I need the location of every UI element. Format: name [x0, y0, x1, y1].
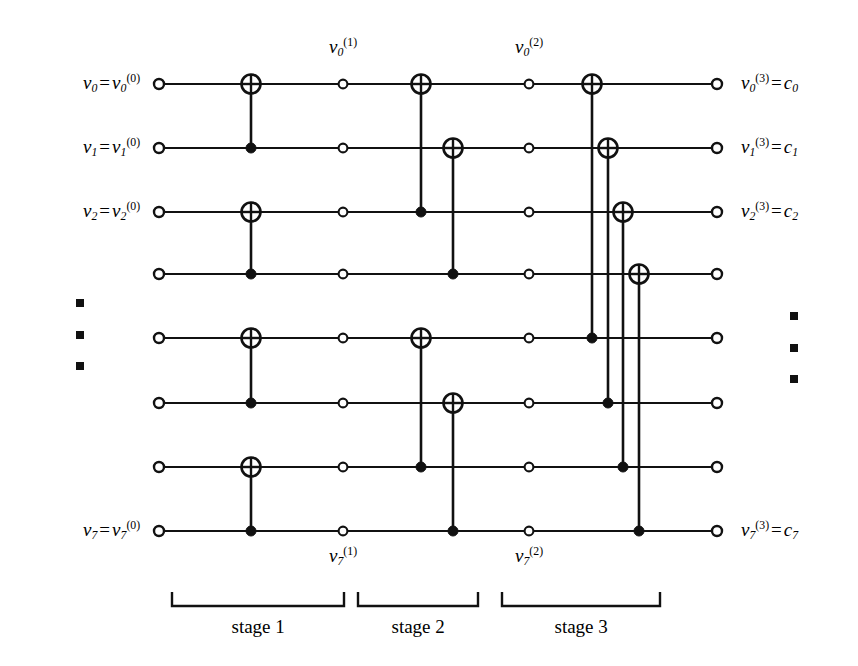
control-dot-stage3-0[interactable]: [587, 333, 597, 343]
input-label-row-1: v1=v1(0): [83, 137, 140, 159]
input-node-row-1[interactable]: [154, 143, 164, 153]
control-dot-stage1-1[interactable]: [246, 269, 256, 279]
output-label-row-7: v7(3)=c7: [741, 520, 798, 542]
output-label-row-2: v2(3)=c2: [741, 201, 798, 223]
stage1-output-node-row-1[interactable]: [339, 144, 348, 153]
intermediate-label-v0_2: v0(2): [515, 37, 543, 59]
control-dot-stage3-2[interactable]: [618, 462, 628, 472]
control-dot-stage3-1[interactable]: [603, 398, 613, 408]
stage2-output-node-row-4[interactable]: [525, 334, 534, 343]
left-ellipsis-dot-1: [76, 331, 84, 339]
control-dot-stage2-0[interactable]: [416, 207, 426, 217]
polar-encoder-figure: v0=v0(0)v1=v1(0)v2=v2(0)v7=v7(0)v0(3)=c0…: [0, 0, 858, 666]
stage-label-1: stage 1: [232, 616, 285, 638]
stage1-output-node-row-7[interactable]: [339, 527, 348, 536]
output-node-row-6[interactable]: [712, 462, 722, 472]
output-node-row-1[interactable]: [712, 143, 722, 153]
stage-bracket-1: [172, 592, 344, 606]
input-node-row-6[interactable]: [154, 462, 164, 472]
circuit-diagram: [0, 0, 858, 666]
stage2-output-node-row-3[interactable]: [525, 270, 534, 279]
stage1-output-node-row-5[interactable]: [339, 399, 348, 408]
control-dot-stage1-2[interactable]: [246, 398, 256, 408]
input-node-row-7[interactable]: [154, 526, 164, 536]
right-ellipsis-dot-1: [790, 344, 798, 352]
output-node-row-0[interactable]: [712, 79, 722, 89]
control-dot-stage2-2[interactable]: [416, 462, 426, 472]
control-dot-stage2-1[interactable]: [448, 269, 458, 279]
stage-label-2: stage 2: [392, 616, 445, 638]
stage1-output-node-row-0[interactable]: [339, 80, 348, 89]
stage2-output-node-row-0[interactable]: [525, 80, 534, 89]
output-label-row-1: v1(3)=c1: [741, 137, 798, 159]
input-node-row-3[interactable]: [154, 269, 164, 279]
stage1-output-node-row-2[interactable]: [339, 208, 348, 217]
stage2-output-node-row-5[interactable]: [525, 399, 534, 408]
input-label-row-0: v0=v0(0): [83, 73, 140, 95]
stage2-output-node-row-6[interactable]: [525, 463, 534, 472]
control-dot-stage1-0[interactable]: [246, 143, 256, 153]
input-node-row-2[interactable]: [154, 207, 164, 217]
input-node-row-4[interactable]: [154, 333, 164, 343]
input-node-row-0[interactable]: [154, 79, 164, 89]
right-ellipsis-dot-0: [790, 312, 798, 320]
control-dot-stage1-3[interactable]: [246, 526, 256, 536]
stage1-output-node-row-4[interactable]: [339, 334, 348, 343]
control-dot-stage2-3[interactable]: [448, 526, 458, 536]
ellipsis-group: [76, 299, 798, 383]
output-node-row-5[interactable]: [712, 398, 722, 408]
stage-bracket-group: [172, 592, 660, 606]
stage2-output-node-row-1[interactable]: [525, 144, 534, 153]
right-ellipsis-dot-2: [790, 375, 798, 383]
stage1-output-node-row-3[interactable]: [339, 270, 348, 279]
intermediate-label-v7_2: v7(2): [515, 546, 543, 568]
stage1-output-node-row-6[interactable]: [339, 463, 348, 472]
input-node-row-5[interactable]: [154, 398, 164, 408]
left-ellipsis-dot-0: [76, 299, 84, 307]
stage2-output-node-row-7[interactable]: [525, 527, 534, 536]
stage2-output-node-row-2[interactable]: [525, 208, 534, 217]
left-ellipsis-dot-2: [76, 362, 84, 370]
intermediate-label-v7_1: v7(1): [329, 546, 357, 568]
intermediate-label-v0_1: v0(1): [329, 37, 357, 59]
control-dot-stage3-3[interactable]: [634, 526, 644, 536]
output-node-row-4[interactable]: [712, 333, 722, 343]
output-node-row-3[interactable]: [712, 269, 722, 279]
output-node-row-2[interactable]: [712, 207, 722, 217]
stage-bracket-3: [502, 592, 660, 606]
stage-bracket-2: [358, 592, 478, 606]
input-label-row-7: v7=v7(0): [83, 520, 140, 542]
input-label-row-2: v2=v2(0): [83, 201, 140, 223]
output-node-row-7[interactable]: [712, 526, 722, 536]
output-label-row-0: v0(3)=c0: [741, 73, 798, 95]
stage-label-3: stage 3: [555, 616, 608, 638]
